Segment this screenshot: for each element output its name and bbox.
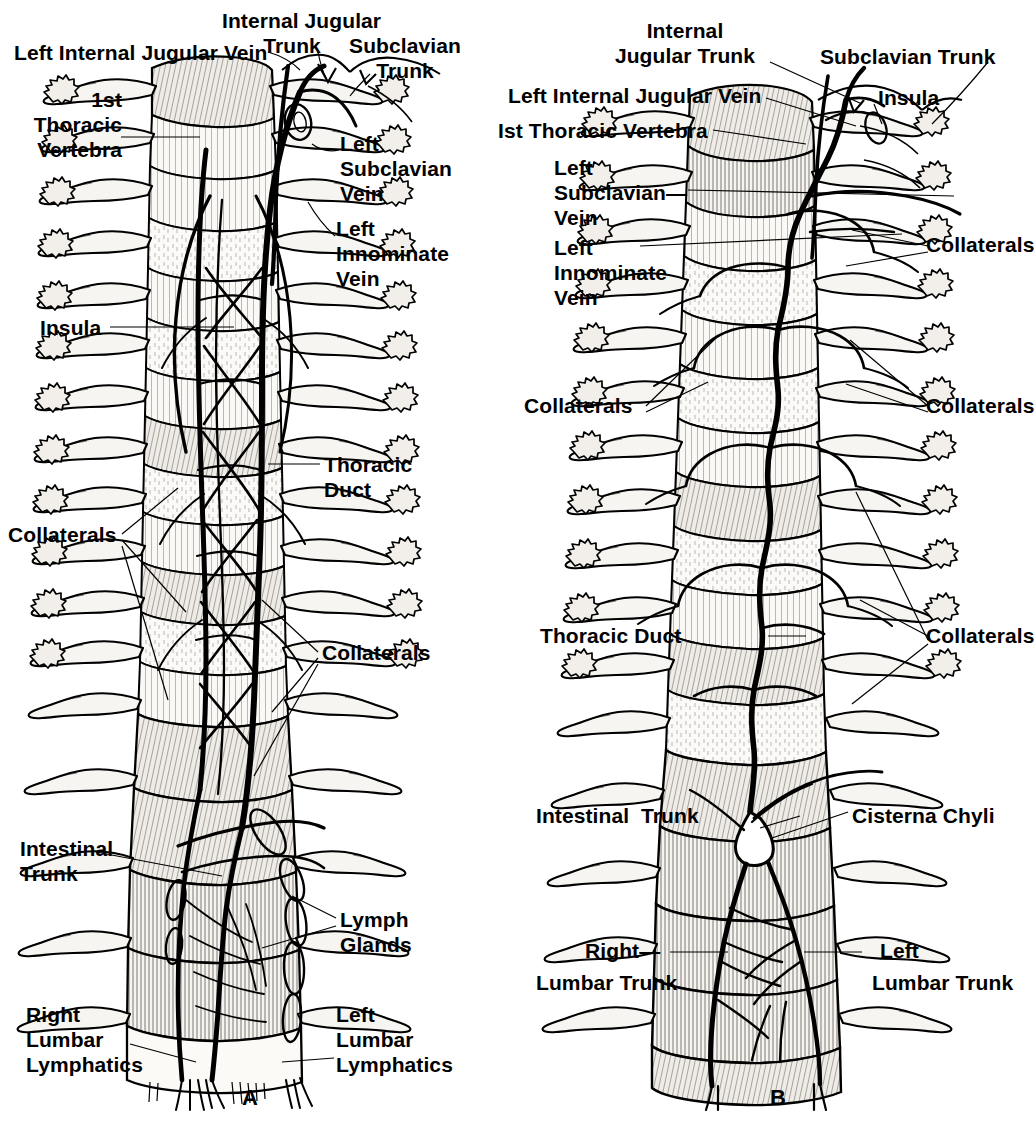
panel-b-letter: B — [770, 1085, 786, 1111]
label-a-internal-jugular-trunk: Internal Jugular Trunk — [222, 8, 362, 58]
label-a-subclavian-trunk: Subclavian Trunk — [348, 33, 462, 83]
label-b-right-lumbar-trunk-line2: Lumbar Trunk — [536, 970, 677, 995]
label-a-left-innominate-vein: Left Innominate Vein — [336, 216, 449, 291]
label-b-first-thoracic-vertebra: Ist Thoracic Vertebra — [498, 118, 708, 143]
label-b-collaterals-mid-right: Collaterals — [926, 393, 1034, 418]
label-b-internal-jugular-trunk: Internal Jugular Trunk — [588, 18, 782, 68]
label-b-left-lumbar-trunk: Left — [880, 938, 919, 963]
label-a-lymph-glands: Lymph Glands — [340, 907, 412, 957]
label-a-left-subclavian-vein: Left Subclavian Vein — [340, 131, 452, 206]
label-b-cisterna-chyli: Cisterna Chyli — [852, 803, 995, 828]
label-a-left-lumbar-lymphatics: Left Lumbar Lymphatics — [336, 1002, 453, 1077]
label-b-subclavian-trunk: Subclavian Trunk — [820, 44, 996, 69]
label-b-intestinal-trunk: Intestinal Trunk — [536, 803, 699, 828]
label-a-first-thoracic-vertebra: 1st Thoracic Vertebra — [10, 87, 122, 162]
label-a-collaterals-right: Collaterals — [322, 640, 430, 665]
label-a-collaterals-left: Collaterals — [8, 522, 116, 547]
label-b-left-innominate-vein: Left Innominate Vein — [554, 235, 667, 310]
label-a-insula: Insula — [40, 315, 101, 340]
label-a-intestinal-trunk: Intestinal Trunk — [20, 836, 113, 886]
label-b-collaterals-lower-right: Collaterals — [926, 623, 1034, 648]
label-b-left-lumbar-trunk-line2: Lumbar Trunk — [872, 970, 1013, 995]
label-a-thoracic-duct: Thoracic Duct — [324, 452, 412, 502]
label-b-right-lumbar-trunk: Right— — [585, 938, 660, 963]
panel-a-letter: A — [242, 1085, 258, 1111]
label-a-right-lumbar-lymphatics: Right Lumbar Lymphatics — [26, 1002, 143, 1077]
label-b-insula: Insula — [878, 85, 939, 110]
label-b-collaterals-mid-left: Collaterals — [524, 393, 632, 418]
label-b-thoracic-duct: Thoracic Duct — [540, 623, 681, 648]
label-b-collaterals-upper-right: Collaterals — [926, 232, 1034, 257]
label-b-left-internal-jugular-vein: Left Internal Jugular Vein — [508, 83, 761, 108]
label-b-left-subclavian-vein: Left Subclavian— Vein — [554, 155, 687, 230]
